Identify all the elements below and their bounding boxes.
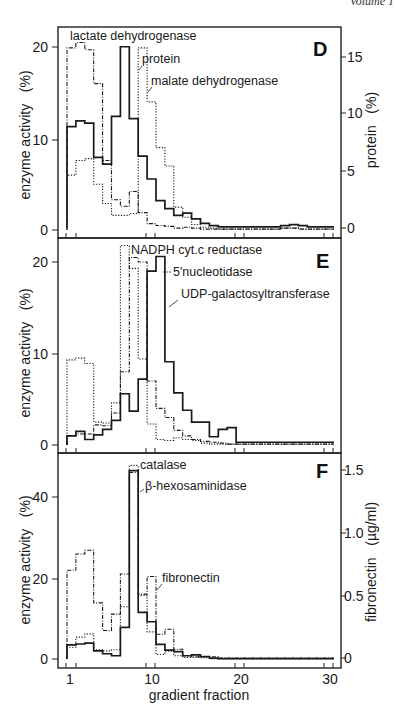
figure-enzyme-distribution: 20 10 0 15 10 5 0 enzyme activity (%) pr… <box>0 0 396 713</box>
x-axis-title: gradient fraction <box>149 687 249 703</box>
panel-e-ytick-0: 0 <box>40 437 48 453</box>
xtick-30: 30 <box>322 671 338 687</box>
xtick-20: 20 <box>233 671 249 687</box>
panel-d-ytick-10: 10 <box>32 132 48 148</box>
panel-d-right-axis: 15 10 5 0 <box>341 49 363 236</box>
panel-f-left-axis: 40 20 0 <box>32 489 58 667</box>
panel-e: 20 10 0 enzyme activity (%) E NADPH cyt.… <box>17 238 341 453</box>
label-5-nucleotidase: 5'nucleotidase <box>173 265 253 279</box>
panel-d-ytick-right-5: 5 <box>347 163 355 179</box>
label-catalase: catalase <box>140 458 187 472</box>
panel-d-ylabel: enzyme activity (%) <box>17 70 33 199</box>
panel-d: 20 10 0 15 10 5 0 enzyme activity (%) pr… <box>17 27 379 238</box>
label-lactate-dehydrogenase: lactate dehydrogenase <box>70 29 197 43</box>
xtick-10: 10 <box>144 671 160 687</box>
panel-f-ylabel-right: fibronectin (µg/ml) <box>363 502 379 622</box>
panel-d-letter: D <box>313 38 327 60</box>
panel-f-ytick-0: 0 <box>40 651 48 667</box>
panel-f-ytick-right-0: 0 <box>344 650 352 666</box>
panel-f-ytick-40: 40 <box>32 489 48 505</box>
panel-d-left-axis: 20 10 0 <box>32 39 58 238</box>
panel-e-ylabel: enzyme activity (%) <box>17 288 33 417</box>
panel-d-ytick-0: 0 <box>40 222 48 238</box>
panel-e-ytick-20: 20 <box>32 254 48 270</box>
panel-d-ytick-20: 20 <box>32 39 48 55</box>
panel-f-ytick-right-1-0: 1.0 <box>344 525 364 541</box>
panel-f-ytick-20: 20 <box>32 571 48 587</box>
panel-f-series <box>67 465 334 659</box>
series-fibronectin <box>67 473 334 658</box>
panel-e-ytick-10: 10 <box>32 346 48 362</box>
series-udp-galactosyltransferase <box>67 257 334 445</box>
label-protein: protein <box>142 52 180 66</box>
panel-e-letter: E <box>316 250 329 272</box>
series-catalase <box>67 465 334 659</box>
panel-f-ytick-right-0-5: 0.5 <box>344 588 364 604</box>
panel-d-series <box>67 42 334 230</box>
panel-d-ytick-right-0: 0 <box>347 220 355 236</box>
panel-f-letter: F <box>316 460 328 482</box>
panel-f-ylabel: enzyme activity (%) <box>17 495 33 624</box>
series-5-nucleotidase <box>67 257 334 445</box>
xtick-1: 1 <box>66 671 74 687</box>
panel-d-ytick-right-15: 15 <box>347 49 363 65</box>
label-malate-dehydrogenase: malate dehydrogenase <box>151 74 278 88</box>
panel-f: 40 20 0 1.5 1.0 0.5 0 enzyme activity (%… <box>17 233 379 703</box>
label-nadph-cytc-reductase: NADPH cyt.c reductase <box>131 243 262 257</box>
panel-f-ytick-right-1-5: 1.5 <box>344 462 364 478</box>
series--hexosaminidase <box>67 471 334 659</box>
panel-e-left-axis: 20 10 0 <box>32 254 58 453</box>
series-lactate-dehydrogenase <box>67 42 334 230</box>
label-beta-hexosaminidase: β-hexosaminidase <box>145 479 247 493</box>
label-udp-galactosyltransferase: UDP-galactosyltransferase <box>181 287 330 301</box>
panel-d-ytick-right-10: 10 <box>347 105 363 121</box>
panel-d-ylabel-right: protein (%) <box>363 92 379 168</box>
panel-d-frame <box>58 27 341 238</box>
label-fibronectin: fibronectin <box>162 571 220 585</box>
panel-f-right-axis: 1.5 1.0 0.5 0 <box>341 462 364 666</box>
